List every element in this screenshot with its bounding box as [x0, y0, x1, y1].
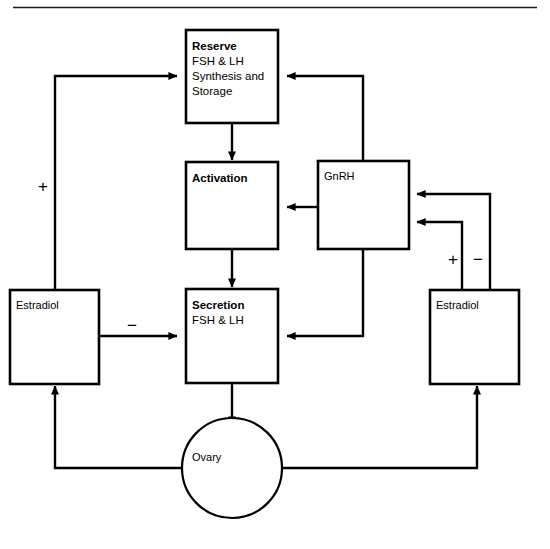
node-estradiol-left-title: Estradiol [16, 299, 59, 311]
diagram-canvas: Reserve FSH & LH Synthesis and Storage A… [0, 0, 550, 549]
node-secretion-title: Secretion [192, 299, 244, 311]
node-reserve-line-0: FSH & LH [192, 55, 244, 67]
edge-ovary-to-estradiol-right [282, 386, 477, 468]
node-gnrh-title: GnRH [324, 170, 355, 182]
edge-gnrh-to-reserve [287, 76, 363, 160]
node-ovary-title: Ovary [192, 451, 222, 463]
node-reserve-title: Reserve [192, 40, 237, 52]
edge-estradiol-left-to-reserve [55, 76, 177, 290]
node-reserve-line-2: Storage [192, 85, 232, 97]
edge-gnrh-to-secretion [287, 249, 363, 336]
edge-ovary-to-estradiol-left [55, 386, 182, 468]
sign-secretion-negative: − [127, 316, 137, 335]
node-reserve-line-1: Synthesis and [192, 70, 264, 82]
edge-estradiol-right-to-gnrh-negative [417, 194, 490, 290]
node-estradiol-right-title: Estradiol [436, 299, 479, 311]
diagram-svg: Reserve FSH & LH Synthesis and Storage A… [0, 0, 550, 549]
sign-gnrh-positive: + [448, 250, 458, 269]
sign-gnrh-negative: − [473, 250, 483, 269]
node-ovary-circle[interactable] [182, 418, 282, 518]
node-activation-title: Activation [192, 172, 248, 184]
sign-left-positive: + [38, 177, 48, 196]
node-secretion-line-0: FSH & LH [192, 314, 244, 326]
